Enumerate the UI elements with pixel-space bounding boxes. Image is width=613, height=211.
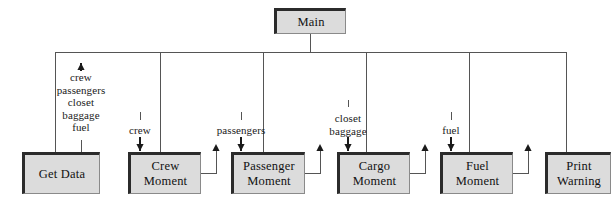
couple-item-crew-in: crew [110, 124, 170, 137]
couple-item-crew: crew [16, 71, 146, 84]
arrowhead-crew-return [212, 144, 219, 151]
module-print-warning[interactable]: Print Warning [545, 152, 611, 194]
arrowhead-fuel-return [524, 144, 531, 151]
couple-item-passengers: passengers [16, 84, 146, 97]
couple-item-baggage: baggage [16, 109, 146, 122]
module-main-label: Main [297, 15, 324, 30]
arrowhead-fuel-down [447, 144, 454, 151]
couple-item-baggage-in: baggage [313, 125, 383, 138]
arrowhead-cargo-down [344, 144, 351, 151]
couple-item-passengers-in: passengers [196, 124, 286, 137]
module-print-warning-label-2: Warning [557, 174, 601, 189]
return-path-crew-moment [201, 150, 216, 173]
module-fuel-moment[interactable]: Fuel Moment [440, 152, 513, 194]
arrowhead-cargo-return [421, 144, 428, 151]
couple-item-closet-in: closet [313, 112, 383, 125]
return-path-cargo-moment [410, 150, 425, 173]
module-passenger-moment-label-1: Passenger [243, 159, 295, 174]
data-couple-passengers-in: passengers [196, 124, 286, 137]
arrowhead-get-data-up [77, 63, 84, 70]
data-couple-crew-in: crew [110, 124, 170, 137]
module-passenger-moment-label-2: Moment [247, 174, 291, 189]
module-cargo-moment-label-1: Cargo [359, 159, 390, 174]
data-couple-cargo-in: closet baggage [313, 112, 383, 137]
module-get-data[interactable]: Get Data [22, 152, 100, 194]
couple-item-fuel-in: fuel [421, 124, 481, 137]
return-path-passenger-moment [305, 150, 320, 173]
module-main[interactable]: Main [274, 8, 346, 34]
return-path-fuel-moment [513, 150, 528, 173]
module-fuel-moment-label-1: Fuel [466, 159, 489, 174]
module-crew-moment-label-1: Crew [152, 159, 180, 174]
module-passenger-moment[interactable]: Passenger Moment [231, 152, 305, 194]
arrowhead-passengers-down [237, 144, 244, 151]
module-cargo-moment[interactable]: Cargo Moment [337, 152, 410, 194]
module-crew-moment-label-2: Moment [144, 174, 188, 189]
arrowhead-passenger-return [316, 144, 323, 151]
module-get-data-label-1: Get Data [39, 167, 85, 182]
structure-chart-canvas: Main Get Data Crew Moment Passenger Mome… [0, 0, 613, 211]
module-crew-moment[interactable]: Crew Moment [128, 152, 201, 194]
couple-item-closet: closet [16, 96, 146, 109]
module-fuel-moment-label-2: Moment [456, 174, 500, 189]
module-cargo-moment-label-2: Moment [353, 174, 397, 189]
arrowhead-crew-down [136, 144, 143, 151]
data-couple-fuel-in: fuel [421, 124, 481, 137]
module-print-warning-label-1: Print [566, 159, 591, 174]
